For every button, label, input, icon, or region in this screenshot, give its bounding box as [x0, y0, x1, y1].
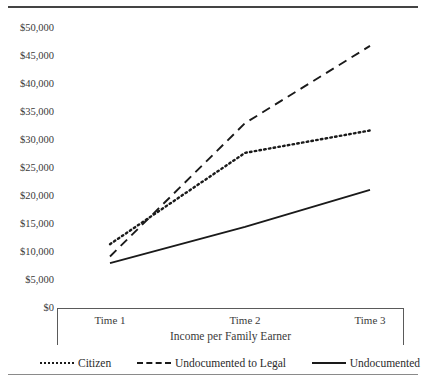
- dashed-line-swatch: [137, 358, 171, 368]
- chart-legend: CitizenUndocumented to LegalUndocumented: [40, 355, 420, 371]
- dotted-line-swatch: [40, 358, 74, 368]
- legend-item-label: Undocumented: [350, 357, 420, 369]
- bottom-horizontal-rule: [8, 374, 418, 375]
- figure-container: $50,000$45,000$40,000$35,000$30,000$25,0…: [0, 0, 426, 380]
- series-line-citizen: [110, 130, 370, 244]
- series-line-undocumented: [110, 190, 370, 263]
- legend-item-label: Citizen: [78, 357, 111, 369]
- series-line-undocumented-to-legal: [110, 46, 370, 257]
- legend-item-citizen[interactable]: Citizen: [40, 357, 111, 369]
- x-axis-tick-label: Time 2: [205, 314, 285, 326]
- legend-item-undocumented[interactable]: Undocumented: [312, 357, 420, 369]
- x-axis-title: Income per Family Earner: [57, 330, 404, 342]
- x-axis-tick-label: Time 3: [330, 314, 410, 326]
- x-axis-tick-label: Time 1: [70, 314, 150, 326]
- solid-line-swatch: [312, 358, 346, 368]
- legend-item-label: Undocumented to Legal: [175, 357, 286, 369]
- legend-item-undocumented-to-legal[interactable]: Undocumented to Legal: [137, 357, 286, 369]
